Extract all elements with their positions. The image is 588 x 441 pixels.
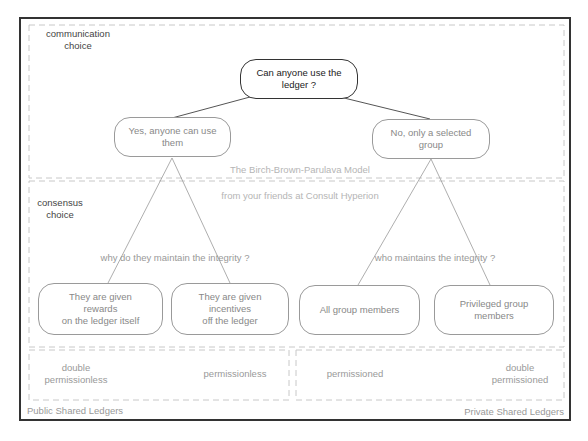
public-integrity-question: why do they maintain the integrity ?: [90, 252, 260, 264]
model-subtitle: from your friends at Consult Hyperion: [200, 190, 400, 202]
root-question-text: Can anyone use the ledger ?: [256, 67, 341, 91]
leaf-privileged-group-members: Privileged group members: [434, 285, 554, 335]
leaf-text: Privileged group members: [460, 298, 529, 322]
leaf-text: They are given incentives off the ledger: [199, 291, 262, 327]
category-permissioned: permissioned: [315, 368, 395, 380]
private-integrity-question: who maintains the integrity ?: [355, 252, 515, 264]
leaf-all-group-members: All group members: [299, 285, 420, 335]
communication-choice-label: communication choice: [36, 28, 120, 52]
private-branch-text: No, only a selected group: [391, 127, 472, 151]
leaf-rewards-on-ledger: They are given rewards on the ledger its…: [38, 283, 163, 335]
private-shared-ledgers-label: Private Shared Ledgers: [440, 406, 564, 418]
public-shared-ledgers-label: Public Shared Ledgers: [27, 405, 147, 417]
private-branch-node: No, only a selected group: [372, 119, 490, 159]
public-branch-node: Yes, anyone can use them: [114, 117, 231, 157]
model-title: The Birch-Brown-Parulava Model: [200, 164, 400, 176]
root-question-node: Can anyone use the ledger ?: [240, 59, 358, 99]
category-double-permissionless: double permissionless: [36, 362, 116, 386]
public-branch-text: Yes, anyone can use them: [129, 125, 217, 149]
consensus-choice-label: consensus choice: [30, 197, 90, 221]
leaf-text: They are given rewards on the ledger its…: [62, 291, 140, 327]
leaf-text: All group members: [320, 304, 400, 316]
leaf-incentives-off-ledger: They are given incentives off the ledger: [171, 283, 289, 335]
category-double-permissioned: double permissioned: [480, 362, 560, 386]
category-permissionless: permissionless: [195, 368, 275, 380]
